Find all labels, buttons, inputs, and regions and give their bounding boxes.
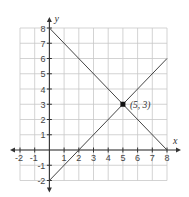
x-tick-label: -2 [15,153,23,163]
x-tick-label: 4 [106,153,111,163]
intersection-point [120,102,125,107]
y-tick-label: 5 [40,69,45,79]
y-tick-label: 1 [40,130,45,140]
y-axis-label: y [53,13,59,24]
y-axis-up-arrow-icon [47,17,52,22]
x-tick-label: 6 [135,153,140,163]
y-tick-label: 3 [40,100,45,110]
x-tick-label: 7 [150,153,155,163]
x-axis-left-arrow-icon [10,148,15,153]
x-tick-label: 3 [91,153,96,163]
x-tick-label: 8 [164,153,169,163]
y-tick-label: 6 [40,54,45,64]
y-axis-down-arrow-icon [47,188,52,193]
y-tick-label: 4 [40,85,45,95]
x-axis-label: x [172,135,178,146]
x-tick-label: 5 [120,153,125,163]
intersection-label: (5, 3) [130,100,151,111]
y-tick-label: -2 [37,176,45,186]
x-tick-label: 2 [76,153,81,163]
y-tick-label: -1 [37,161,45,171]
x-tick-label: 1 [62,153,67,163]
x-axis-right-arrow-icon [176,148,181,153]
y-tick-label: 8 [40,24,45,34]
y-tick-label: 2 [40,115,45,125]
y-tick-label: 7 [40,39,45,49]
coordinate-plane: -2-112345678-2-112345678 (5, 3) x y [0,0,189,197]
